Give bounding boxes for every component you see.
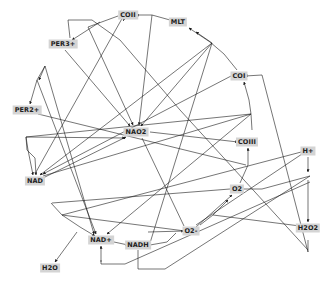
edge — [43, 137, 126, 178]
edge — [68, 20, 308, 250]
node-o2: O2 — [230, 185, 244, 194]
edge — [88, 16, 118, 27]
edge — [142, 138, 184, 226]
edge — [72, 22, 100, 40]
edge — [26, 137, 125, 138]
edge — [26, 137, 33, 175]
node-nadh: NADH — [125, 241, 151, 250]
node-coiii: COIII — [236, 138, 258, 147]
edge — [139, 15, 152, 125]
edge — [65, 50, 130, 126]
edge — [39, 66, 45, 80]
edge — [196, 32, 212, 43]
edge — [150, 132, 238, 142]
edge — [26, 137, 36, 175]
edge — [88, 27, 133, 125]
node-per3: PER3+ — [49, 40, 78, 49]
edge — [196, 154, 302, 225]
node-nadp: NAD+ — [88, 236, 114, 245]
edge — [62, 151, 305, 215]
edge — [138, 176, 310, 269]
network-diagram: COIIMLTPER3+COIPER2+NAO2COIIIH+NADO2H2O2… — [0, 0, 333, 285]
edge — [244, 82, 252, 130]
node-coii: COII — [118, 11, 138, 20]
node-coi: COI — [230, 72, 247, 81]
edge — [189, 28, 237, 70]
edge — [52, 189, 230, 203]
node-h2o: H2O — [40, 264, 60, 273]
node-mlt: MLT — [169, 18, 187, 27]
node-h2o2: H2O2 — [296, 224, 320, 233]
edge — [196, 195, 232, 227]
edge — [213, 215, 300, 226]
edge — [150, 43, 212, 243]
node-hplus: H+ — [300, 147, 315, 156]
edge — [141, 43, 212, 126]
edge — [43, 75, 233, 174]
node-per2: PER2+ — [13, 106, 42, 115]
edge — [200, 200, 228, 225]
edge — [55, 232, 77, 262]
node-nad: NAD — [25, 177, 45, 186]
edge — [62, 215, 185, 231]
node-o2m: O2- — [182, 227, 199, 236]
node-nao2: NAO2 — [124, 128, 149, 137]
edge — [152, 15, 170, 20]
edge — [240, 148, 248, 183]
